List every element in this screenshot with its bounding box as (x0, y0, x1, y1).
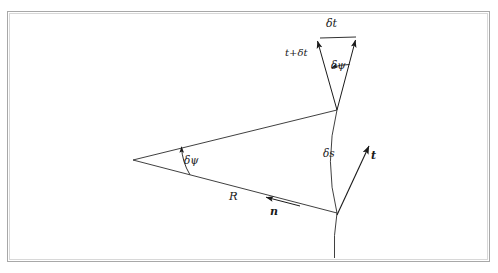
vector-delta-t-connector (320, 37, 356, 38)
label-delta-s: δs (323, 148, 335, 159)
label-delta-t: δt (326, 18, 337, 29)
vector-t-copy (337, 40, 356, 110)
label-normal-vector: n (270, 206, 278, 217)
label-delta-psi-apex: δψ (184, 155, 199, 166)
tangent-vector-arrow (337, 146, 369, 215)
label-delta-psi-vector-triangle: δψ (331, 60, 346, 71)
vector-t-plus-delta-t (318, 41, 338, 110)
label-radius: R (229, 191, 238, 203)
radius-line-lower (133, 160, 337, 213)
curve-arc-tail (334, 213, 337, 258)
figure-canvas: δt t+δt δψ δψ δs t n R (0, 0, 498, 273)
curve-arc (331, 110, 337, 213)
label-tangent-vector: t (371, 150, 376, 161)
label-t-plus-delta-t: t+δt (285, 48, 307, 58)
curvature-diagram (0, 0, 498, 273)
radius-line-upper (133, 110, 337, 160)
